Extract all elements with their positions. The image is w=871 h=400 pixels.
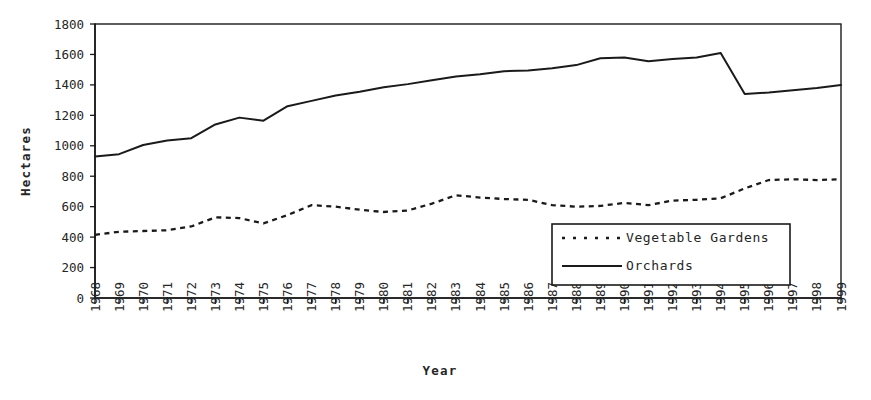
y-tick-label: 600 (61, 199, 84, 214)
y-tick-label: 200 (61, 260, 84, 275)
series-line-orchards (95, 53, 841, 157)
x-tick-label: 1977 (304, 282, 319, 312)
legend-label-vegetable-gardens: Vegetable Gardens (626, 230, 769, 245)
y-tick-label: 1000 (54, 138, 84, 153)
x-tick-label: 1986 (521, 282, 536, 312)
y-axis: 020040060080010001200140016001800 (54, 17, 96, 306)
x-tick-label: 1973 (208, 282, 223, 312)
x-tick-label: 1997 (785, 282, 800, 312)
x-tick-label: 1970 (136, 282, 151, 312)
line-chart: 020040060080010001200140016001800 196819… (0, 0, 871, 400)
y-axis-title: Hectares (18, 126, 33, 196)
y-tick-label: 800 (61, 169, 84, 184)
x-tick-label: 1993 (689, 282, 704, 312)
x-tick-label: 1996 (761, 282, 776, 312)
x-tick-label: 1969 (112, 282, 127, 312)
x-tick-label: 1982 (424, 282, 439, 312)
x-tick-label: 1971 (160, 282, 175, 312)
x-tick-label: 1979 (352, 282, 367, 312)
x-tick-label: 1976 (280, 282, 295, 312)
x-axis: 1968196919701971197219731974197519761977… (88, 282, 849, 312)
x-tick-label: 1968 (88, 282, 103, 312)
x-tick-label: 1999 (834, 282, 849, 312)
x-tick-label: 1975 (256, 282, 271, 312)
x-tick-label: 1985 (497, 282, 512, 312)
x-tick-label: 1978 (328, 282, 343, 312)
x-tick-label: 1972 (184, 282, 199, 312)
x-tick-label: 1994 (713, 282, 728, 312)
chart-legend[interactable]: Vegetable GardensOrchards (552, 224, 790, 285)
x-tick-label: 1995 (737, 282, 752, 312)
x-tick-label: 1981 (400, 282, 415, 312)
x-tick-label: 1980 (376, 282, 391, 312)
y-tick-label: 1600 (54, 47, 84, 62)
y-tick-label: 1800 (54, 17, 84, 32)
x-tick-label: 1990 (617, 282, 632, 312)
x-tick-label: 1987 (545, 282, 560, 312)
x-axis-title: Year (423, 363, 458, 378)
x-tick-label: 1988 (569, 282, 584, 312)
x-tick-label: 1974 (232, 282, 247, 312)
x-tick-label: 1989 (593, 282, 608, 312)
data-series-group (95, 53, 841, 235)
x-tick-label: 1991 (641, 282, 656, 312)
x-tick-label: 1992 (665, 282, 680, 312)
x-tick-label: 1983 (448, 282, 463, 312)
chart-figure: 020040060080010001200140016001800 196819… (0, 0, 871, 400)
y-tick-label: 400 (61, 230, 84, 245)
x-tick-label: 1998 (809, 282, 824, 312)
y-tick-label: 1400 (54, 77, 84, 92)
x-tick-label: 1984 (473, 282, 488, 312)
y-tick-label: 0 (76, 291, 84, 306)
y-tick-label: 1200 (54, 108, 84, 123)
legend-label-orchards: Orchards (626, 258, 693, 273)
